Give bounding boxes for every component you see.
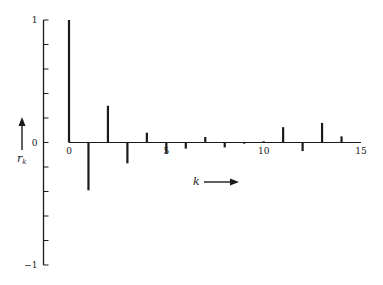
x-tick-label: 15 — [355, 146, 367, 156]
x-tick-label: 0 — [66, 146, 72, 156]
x-axis-title: k — [193, 175, 200, 188]
y-axis-arrow-head — [19, 117, 26, 126]
x-tick-label: 10 — [258, 146, 270, 156]
y-tick-label: 1 — [32, 15, 38, 25]
x-axis-arrow-head — [230, 179, 239, 186]
y-axis: 10−1 — [24, 15, 48, 270]
stems — [69, 20, 342, 190]
y-tick-label: 0 — [32, 138, 38, 148]
y-tick-label: −1 — [24, 260, 37, 270]
autocorrelation-chart: 10−1 051015 rk k — [0, 0, 383, 285]
y-axis-title: rk — [17, 152, 27, 166]
x-axis: 051015 — [66, 143, 367, 156]
